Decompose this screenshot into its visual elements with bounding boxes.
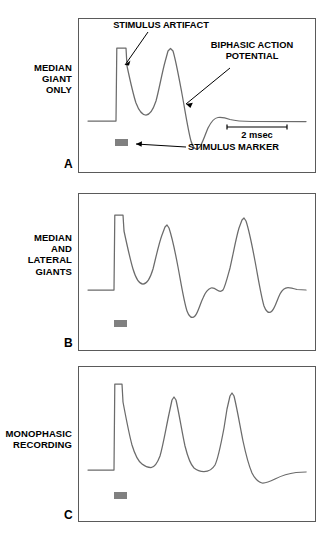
scale-bar-label: 2 msec	[226, 130, 288, 141]
stimulus-marker-swatch-c	[114, 492, 127, 499]
panel-a: STIMULUS ARTIFACT BIPHASIC ACTION POTENT…	[78, 18, 316, 173]
annotation-stimulus-marker: STIMULUS MARKER	[188, 142, 310, 153]
figure-root: MEDIAN GIANT ONLY A STIMULUS ARTIFACT BI…	[0, 0, 335, 541]
stimulus-marker-swatch-b	[114, 320, 127, 327]
panel-c	[78, 366, 316, 522]
panel-b-trace	[78, 193, 316, 351]
row-label-c: MONOPHASIC RECORDING	[2, 428, 72, 450]
panel-b	[78, 193, 316, 351]
stimulus-marker-swatch-a	[115, 139, 128, 146]
row-label-a: MEDIAN GIANT ONLY	[2, 62, 72, 96]
annotation-stimulus-artifact: STIMULUS ARTIFACT	[100, 20, 222, 31]
panel-letter-b: B	[64, 337, 73, 349]
panel-letter-a: A	[64, 158, 73, 170]
annotation-biphasic-action-potential: BIPHASIC ACTION POTENTIAL	[196, 40, 308, 61]
panel-letter-c: C	[64, 509, 73, 521]
row-label-b: MEDIAN AND LATERAL GIANTS	[2, 232, 72, 277]
